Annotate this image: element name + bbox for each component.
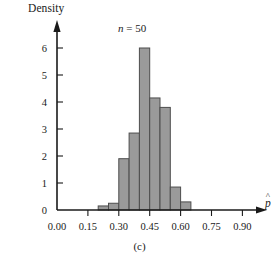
x-axis-tick-label: 0.75 — [202, 221, 220, 232]
y-axis-tick-label: 6 — [42, 43, 47, 54]
x-axis-tick-label: 0.45 — [141, 221, 159, 232]
y-axis-tick-label: 3 — [42, 124, 47, 135]
x-axis-tick-label: 0.60 — [171, 221, 189, 232]
x-axis-tick-label: 0.30 — [110, 221, 128, 232]
y-axis-tick-label: 0 — [42, 205, 47, 216]
histogram-bar — [160, 107, 170, 210]
histogram-bar — [109, 203, 119, 210]
y-axis-tick-label: 1 — [42, 178, 47, 189]
histogram-bar — [150, 98, 160, 210]
y-axis-arrow-icon — [53, 20, 60, 32]
x-axis-tick-label: 0.15 — [79, 221, 97, 232]
bars-group — [98, 48, 191, 210]
x-axis-tick-label: 0.00 — [48, 221, 66, 232]
histogram-bar — [139, 48, 149, 210]
histogram-bar — [181, 202, 191, 210]
x-axis-arrow-icon — [256, 206, 267, 213]
y-axis-tick-label: 2 — [42, 151, 47, 162]
histogram-bar — [129, 133, 139, 210]
x-axis-tick-label: 0.90 — [233, 221, 251, 232]
histogram-figure: Density n = 50 ^p (c) 01234560.000.150.3… — [0, 0, 279, 261]
histogram-bar — [170, 187, 180, 210]
histogram-bar — [119, 159, 129, 210]
histogram-plot: 01234560.000.150.300.450.600.750.90 — [0, 0, 279, 261]
y-axis-tick-label: 5 — [42, 70, 47, 81]
y-axis-tick-label: 4 — [42, 97, 48, 108]
